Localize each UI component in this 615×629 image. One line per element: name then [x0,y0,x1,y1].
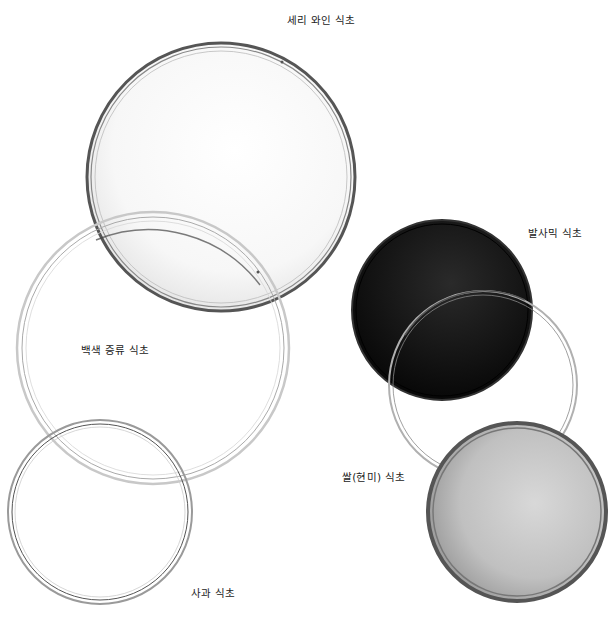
label-balsamic: 발사믹 식초 [528,225,583,240]
vinegar-dishes-illustration: 세리 와인 식초 발사믹 식초 백색 증류 식초 쌀(현미) 식초 사과 식초 [0,0,615,629]
label-sherry: 세리 와인 식초 [287,12,355,27]
dish-brown-rice [428,423,606,601]
dish-sherry [87,43,355,311]
dish-apple [8,420,192,604]
dishes-svg [0,0,615,629]
label-white-distilled: 백색 증류 식초 [81,342,149,357]
label-apple: 사과 식초 [191,585,235,600]
label-rice: 쌀(현미) 식초 [342,469,405,484]
dish-balsamic [352,220,532,400]
